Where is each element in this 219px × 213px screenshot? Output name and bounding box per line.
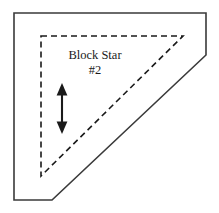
diagram-background xyxy=(0,0,219,213)
block-star-diagram: Block Star #2 xyxy=(0,0,219,213)
block-title-label: Block Star xyxy=(68,48,122,62)
pattern-template-svg: Block Star #2 xyxy=(0,0,219,213)
block-number-label: #2 xyxy=(89,63,102,77)
